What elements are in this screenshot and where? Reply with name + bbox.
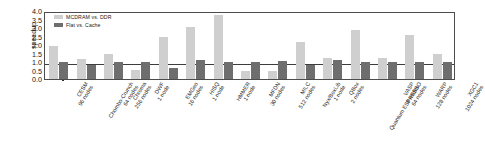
x-tick-label: XGC11024 nodes [458,81,484,113]
x-tick-label: HMMER1 node [235,81,257,106]
bar [388,62,397,79]
bar [378,58,387,79]
x-tick-label: WARP128 nodes [429,81,454,110]
bar [87,65,96,79]
y-tick-label: 2.5 [32,34,42,41]
bar [443,62,452,79]
bar-group [131,13,150,79]
bar [268,71,277,80]
bar-group [323,13,342,79]
bar-group [296,13,315,79]
x-tick-label: CESM96 nodes [72,81,95,107]
bar [141,62,150,79]
x-tick-label: Nyx/BoxLib1 node [321,81,347,112]
bar-group [159,13,178,79]
legend-swatch [54,15,63,19]
y-axis-tick-labels: 0.00.51.01.52.02.53.03.54.0 [20,12,42,80]
y-tick-label: 3.5 [32,17,42,24]
y-tick-label: 1.5 [32,51,42,58]
y-tick-label: 2.0 [32,42,42,49]
bar [251,62,260,79]
bar-group [186,13,205,79]
bar [296,42,305,79]
x-tick-label: EMGeo16 nodes [181,81,204,107]
bar [433,54,442,79]
bar-group [405,13,424,79]
bar [196,60,205,79]
y-tick-label: 1.0 [32,59,42,66]
legend-entry: MCDRAM vs. DDR [54,14,112,20]
y-tick-label: 0.0 [32,76,42,83]
bar [169,68,178,79]
bar [131,70,140,79]
bar [306,65,315,79]
x-tick-label: MILC512 nodes [292,81,317,110]
legend-entry: Flat vs. Cache [54,22,112,28]
legend-label: Flat vs. Cache [66,22,101,28]
x-axis-tick-labels: CESM96 nodesChombo-Crunch64 nodesChroma2… [44,81,455,161]
bar [361,62,370,79]
bar-group [351,13,370,79]
bar [77,59,86,79]
bar [224,62,233,79]
x-tick-label: HISQ1 node [206,81,226,102]
bar [241,71,250,80]
bar [186,27,195,79]
bar [214,15,223,79]
chart-legend: MCDRAM vs. DDRFlat vs. Cache [54,14,112,28]
bar [159,37,168,80]
y-tick-label: 3.0 [32,25,42,32]
bar [323,58,332,79]
legend-label: MCDRAM vs. DDR [66,14,112,20]
bar-group [378,13,397,79]
bar-group [268,13,287,79]
bar [278,61,287,79]
bar [351,30,360,79]
bar [49,46,58,79]
x-tick-label: DWF1 node [151,81,171,102]
bar [333,60,342,79]
y-tick-label: 4.0 [32,8,42,15]
bar [415,62,424,79]
bar [114,62,123,79]
bar [405,35,414,79]
bar-group [214,13,233,79]
x-tick-label: MFDN30 nodes [264,81,287,107]
y-tick-label: 0.5 [32,68,42,75]
bar [59,62,68,79]
bar-group [433,13,452,79]
bar [104,54,113,80]
x-tick-label: QBox2 nodes [344,81,365,105]
legend-swatch [54,23,63,27]
bar-group [241,13,260,79]
